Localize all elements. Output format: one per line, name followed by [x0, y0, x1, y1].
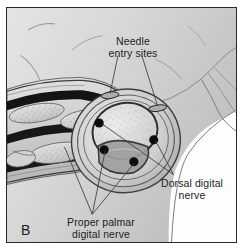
figure-panel: Needle entry sites Dorsal digital nerve … — [0, 0, 244, 251]
nerve-dot-palmar-ulnar — [129, 157, 138, 166]
label-dorsal-digital-nerve: Dorsal digital nerve — [147, 178, 237, 201]
label-proper-palmar-digital-nerve: Proper palmar digital nerve — [47, 217, 155, 240]
label-needle-entry-sites: Needle entry sites — [91, 36, 175, 59]
illustration-frame: Needle entry sites Dorsal digital nerve … — [6, 7, 237, 243]
nerve-dot-palmar-radial — [100, 145, 109, 154]
nerve-dot-dorsal-radial — [95, 118, 104, 127]
panel-letter: B — [21, 222, 31, 238]
